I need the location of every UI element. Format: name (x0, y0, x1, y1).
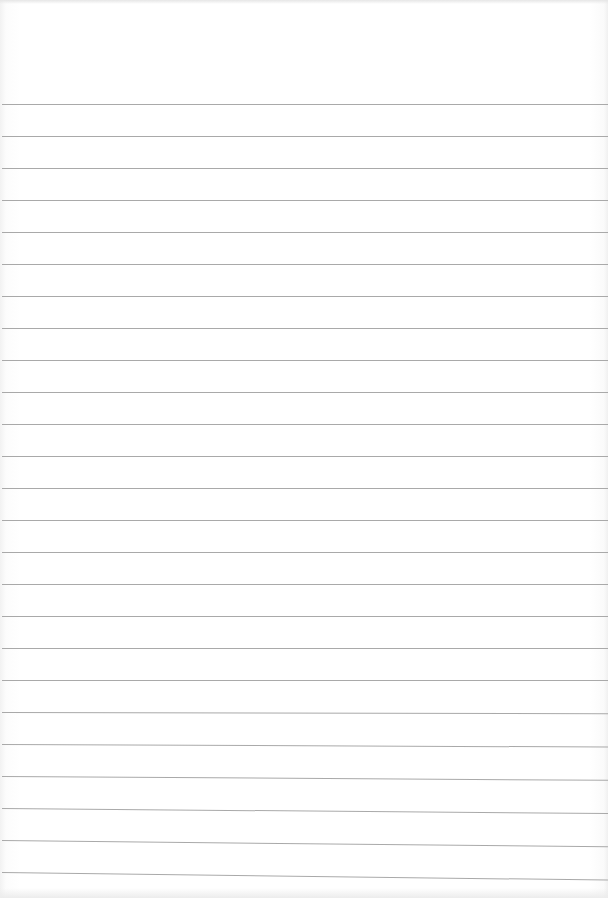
lined-paper-sheet (0, 0, 608, 898)
ruled-line (2, 616, 608, 617)
ruled-line (2, 328, 608, 329)
ruled-line (2, 200, 608, 201)
ruled-line (2, 488, 608, 489)
ruled-line (2, 104, 608, 105)
ruled-line (2, 680, 608, 681)
ruled-line (2, 360, 608, 361)
ruled-line (2, 712, 608, 714)
ruled-line (2, 168, 608, 169)
ruled-line (2, 552, 608, 553)
ruled-line (2, 264, 608, 265)
ruled-line (2, 520, 608, 521)
ruled-line (2, 456, 608, 457)
ruled-line (2, 744, 608, 748)
paper-bottom-edge (0, 888, 608, 898)
ruled-line (2, 840, 608, 847)
ruled-line (2, 296, 608, 297)
ruled-line (2, 584, 608, 585)
ruled-line (2, 872, 608, 881)
ruled-line (2, 232, 608, 233)
ruled-line (2, 424, 608, 425)
ruled-line (2, 808, 608, 814)
ruled-line (2, 648, 608, 649)
ruled-line (2, 136, 608, 137)
paper-top-edge (0, 0, 608, 4)
ruled-line (2, 776, 608, 781)
ruled-line (2, 392, 608, 393)
